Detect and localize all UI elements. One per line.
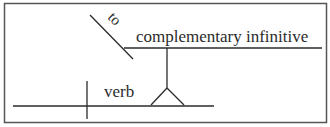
sentence-diagram: to complementary infinitive verb xyxy=(0,0,330,127)
frame-border xyxy=(5,4,327,123)
label-complementary-infinitive: complementary infinitive xyxy=(136,27,308,46)
label-verb: verb xyxy=(104,82,134,101)
